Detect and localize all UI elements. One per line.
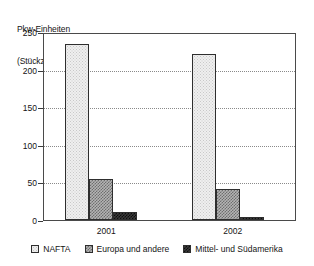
plot-area: [43, 33, 296, 221]
legend-label: NAFTA: [43, 244, 70, 254]
bar: [240, 217, 264, 220]
y-axis-tick-label: 250: [3, 28, 37, 38]
bar-chart: Pkw-Einheiten (Stückzahl in tsd.) 050100…: [0, 0, 314, 266]
y-axis-tick-label: 150: [3, 103, 37, 113]
legend-item: Mittel- und Südamerika: [183, 244, 282, 254]
legend-swatch-icon: [183, 245, 191, 253]
legend: NAFTAEuropa und andereMittel- und Südame…: [0, 244, 314, 254]
bar: [89, 179, 113, 220]
y-axis-tick-mark: [38, 221, 43, 222]
bar: [65, 44, 89, 220]
bar: [113, 212, 137, 220]
x-axis-category-label: 2001: [97, 226, 116, 236]
x-axis-category-label: 2002: [223, 226, 242, 236]
bar: [216, 189, 240, 220]
bar: [192, 54, 216, 220]
legend-label: Mittel- und Südamerika: [195, 244, 282, 254]
legend-label: Europa und andere: [97, 244, 170, 254]
y-axis-tick-label: 0: [3, 216, 37, 226]
legend-item: Europa und andere: [85, 244, 170, 254]
y-axis-tick-label: 50: [3, 178, 37, 188]
legend-swatch-icon: [31, 245, 39, 253]
legend-item: NAFTA: [31, 244, 70, 254]
y-axis-tick-label: 200: [3, 66, 37, 76]
y-axis-tick-label: 100: [3, 141, 37, 151]
legend-swatch-icon: [85, 245, 93, 253]
